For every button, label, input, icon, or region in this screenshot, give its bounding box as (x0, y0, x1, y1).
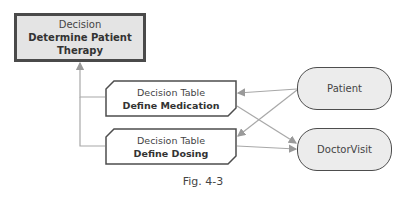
edge-patient-to-dosing (238, 90, 297, 136)
input-data-patient[interactable]: Patient (297, 67, 392, 110)
decision-node-determine-patient-therapy[interactable]: Decision Determine Patient Therapy (14, 13, 146, 62)
decision-table-define-medication[interactable]: Decision Table Define Medication (105, 80, 237, 117)
drd-diagram: Decision Determine Patient Therapy Decis… (0, 0, 409, 199)
edge-medication-to-decision (80, 63, 105, 97)
figure-caption: Fig. 4-3 (170, 175, 236, 188)
node-type-label: Decision (59, 18, 102, 31)
node-title-line2: Therapy (57, 44, 103, 57)
edge-dosing-to-decision (80, 97, 105, 146)
edge-patient-to-medication (238, 89, 297, 93)
node-title-line1: Determine Patient (28, 31, 132, 44)
node-type-label: Decision Table (137, 86, 205, 99)
node-title: Define Dosing (134, 147, 209, 160)
node-label: Patient (327, 83, 362, 94)
node-type-label: Decision Table (137, 134, 205, 147)
node-title: Define Medication (123, 99, 220, 112)
edge-dosing-to-doctorvisit (237, 146, 296, 149)
decision-table-define-dosing[interactable]: Decision Table Define Dosing (105, 128, 237, 165)
edge-medication-to-doctorvisit (237, 106, 296, 143)
node-label: DoctorVisit (317, 144, 372, 155)
input-data-doctorvisit[interactable]: DoctorVisit (297, 128, 392, 171)
